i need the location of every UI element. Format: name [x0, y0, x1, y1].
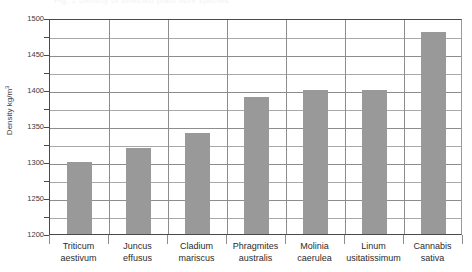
clipped-header-text: Fig. 1 Density of selected plant fibre s…	[54, 0, 229, 5]
category-label-linum-usitatissimum: Linumusitatissimum	[340, 241, 407, 264]
category-separator	[345, 20, 346, 234]
category-separator	[109, 20, 110, 234]
category-label-line: Cannabis	[399, 241, 466, 253]
category-label-line: effusus	[104, 253, 171, 265]
bar-cladium-mariscus	[185, 133, 210, 234]
gridline	[50, 56, 461, 57]
category-label-cladium-mariscus: Cladiummariscus	[163, 241, 230, 264]
category-label-line: Phragmites	[222, 241, 289, 253]
bar-juncus-effusus	[126, 148, 151, 234]
bar-linum-usitatissimum	[362, 90, 387, 234]
category-label-juncus-effusus: Juncuseffusus	[104, 241, 171, 264]
category-label-line: caerulea	[281, 253, 348, 265]
bar-molinia-caerulea	[303, 90, 328, 234]
y-axis-tick-label: 1400	[20, 87, 44, 95]
category-separator	[168, 20, 169, 234]
bar-cannabis-sativa	[421, 32, 446, 234]
category-label-phragmites-australis: Phragmitesaustralis	[222, 241, 289, 264]
y-axis-tick-label: 1250	[20, 195, 44, 203]
y-axis-tick-label: 1500	[20, 15, 44, 23]
category-label-line: sativa	[399, 253, 466, 265]
y-axis-title-text: Density kg/m	[5, 89, 14, 135]
category-label-triticum-aestivum: Triticumaestivum	[45, 241, 112, 264]
category-label-line: Triticum	[45, 241, 112, 253]
category-label-line: Linum	[340, 241, 407, 253]
category-label-line: aestivum	[45, 253, 112, 265]
bar-triticum-aestivum	[67, 162, 92, 234]
category-label-line: mariscus	[163, 253, 230, 265]
category-label-line: australis	[222, 253, 289, 265]
category-label-cannabis-sativa: Cannabissativa	[399, 241, 466, 264]
y-axis-tick-label: 1300	[20, 159, 44, 167]
category-label-line: Juncus	[104, 241, 171, 253]
y-axis-tick-label: 1200	[20, 231, 44, 239]
gridline	[50, 38, 461, 39]
category-separator	[227, 20, 228, 234]
gridline	[50, 74, 461, 75]
category-label-line: Molinia	[281, 241, 348, 253]
figure-container: Fig. 1 Density of selected plant fibre s…	[0, 0, 472, 272]
category-separator	[404, 20, 405, 234]
y-axis-tick-label: 1350	[20, 123, 44, 131]
y-axis-title: Density kg/m3	[4, 74, 15, 146]
category-label-line: usitatissimum	[340, 253, 407, 265]
plot-area	[49, 19, 462, 235]
category-label-line: Cladium	[163, 241, 230, 253]
category-label-molinia-caerulea: Moliniacaerulea	[281, 241, 348, 264]
y-axis-unit-exponent: 3	[4, 86, 10, 89]
gridline	[50, 92, 461, 93]
bar-phragmites-australis	[244, 97, 269, 234]
y-axis-tick-label: 1450	[20, 51, 44, 59]
category-separator	[286, 20, 287, 234]
